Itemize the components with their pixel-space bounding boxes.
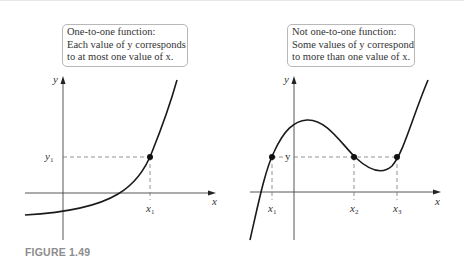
graph-one-to-one [0,0,232,269]
x1-label: x1 [268,203,276,218]
graph-not-one-to-one [232,0,464,269]
y-value-label: y [285,151,291,162]
x2-label: x2 [350,203,358,218]
x-axis-label: x [212,196,217,207]
x1-label: x1 [146,203,154,218]
x3-label: x3 [393,203,401,218]
point-x1 [269,154,275,160]
y-axis-arrow-icon [292,76,297,84]
figure-caption: FIGURE 1.49 [25,246,90,258]
y-axis-label: y [284,74,289,85]
panel-one-to-one: One-to-one function: Each value of y cor… [0,0,232,269]
increasing-curve [25,80,177,215]
point-x2 [351,154,357,160]
x-axis-arrow-icon [433,190,441,195]
panel-not-one-to-one: Not one-to-one function: Some values of … [232,0,464,269]
point-x1-y1 [147,154,153,160]
y-axis-label: y [53,74,58,85]
y1-label: y1 [45,151,53,166]
y-axis-arrow-icon [61,76,66,84]
x-axis-label: x [435,196,440,207]
point-x3 [394,154,400,160]
